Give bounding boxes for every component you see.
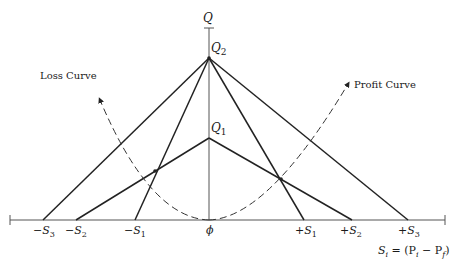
- profit-curve-label: Profit Curve: [354, 79, 416, 90]
- loss-curve: [100, 100, 209, 220]
- q1-lines: [76, 138, 352, 220]
- q1-label: Q1: [211, 121, 227, 137]
- line-q1-neg-s2: [76, 138, 209, 220]
- tick-neg-s1: −S1: [124, 224, 146, 239]
- diagram-canvas: Q Q2 Q1 Loss Curve Profit Curve −S3 −S2 …: [0, 0, 457, 265]
- tick-neg-s3: −S3: [33, 224, 55, 239]
- loss-intersection-point: [153, 169, 157, 173]
- profit-curve: [209, 84, 348, 220]
- tick-origin: ϕ: [206, 224, 214, 237]
- line-q2-neg-s1: [135, 58, 209, 220]
- line-q2-neg-s3: [43, 58, 209, 220]
- q-axis-label: Q: [203, 11, 213, 25]
- tick-neg-s2: −S2: [65, 224, 87, 239]
- q2-point: [207, 56, 211, 60]
- horizontal-axis-formula: Si = (Pi − Pf): [378, 244, 449, 259]
- line-q2-pos-s1: [209, 58, 304, 220]
- q2-label: Q2: [211, 41, 227, 57]
- tick-pos-s2: +S2: [340, 224, 362, 239]
- tick-pos-s3: +S3: [398, 224, 420, 239]
- profit-intersection-point: [279, 177, 283, 181]
- loss-curve-label: Loss Curve: [40, 70, 97, 81]
- tick-pos-s1: +S1: [295, 224, 317, 239]
